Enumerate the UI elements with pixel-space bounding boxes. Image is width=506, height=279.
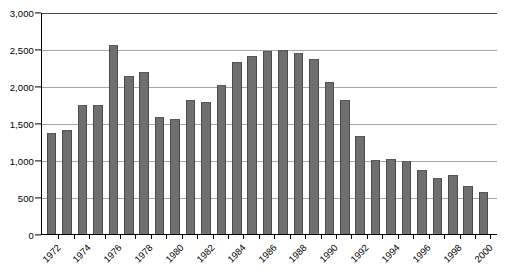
bar-1973 xyxy=(62,130,72,234)
x-tick-label-1972: 1972 xyxy=(36,242,62,268)
bar-chart: 3,0002,5002,0001,5001,0005000 1972197419… xyxy=(0,0,506,279)
bar-1996 xyxy=(417,170,427,234)
x-tick-mark-1986 xyxy=(274,235,275,239)
x-tick-mark-1985 xyxy=(259,235,260,239)
bar-1999 xyxy=(463,186,473,234)
y-tick-label-2500: 2,500 xyxy=(10,45,34,56)
x-axis: 1972197419761978198019821984198619881990… xyxy=(41,235,497,279)
bar-1978 xyxy=(139,72,149,234)
x-tick-mark-1977 xyxy=(135,235,136,239)
bar-1985 xyxy=(247,56,257,234)
x-tick-label-1986: 1986 xyxy=(252,242,278,268)
x-tick-mark-1982 xyxy=(213,235,214,239)
bar-1995 xyxy=(402,161,412,234)
plot-area xyxy=(41,13,497,235)
x-tick-label-1998: 1998 xyxy=(437,242,463,268)
x-tick-label-1988: 1988 xyxy=(283,242,309,268)
y-tick-label-500: 500 xyxy=(18,193,34,204)
x-tick-label-1976: 1976 xyxy=(98,242,124,268)
x-tick-mark-1976 xyxy=(120,235,121,239)
x-tick-label-1974: 1974 xyxy=(67,242,93,268)
bar-1988 xyxy=(294,53,304,234)
x-tick-mark-1989 xyxy=(321,235,322,239)
bar-1987 xyxy=(278,50,288,234)
bar-1974 xyxy=(78,105,88,235)
bar-1982 xyxy=(201,102,211,234)
x-tick-mark-1998 xyxy=(460,235,461,239)
x-tick-mark-1983 xyxy=(228,235,229,239)
bar-1983 xyxy=(217,85,227,234)
bar-1984 xyxy=(232,62,242,234)
y-tick-label-1500: 1,500 xyxy=(10,119,34,130)
bar-1981 xyxy=(186,100,196,234)
x-tick-mark-1990 xyxy=(336,235,337,239)
x-tick-label-1982: 1982 xyxy=(190,242,216,268)
x-tick-mark-1979 xyxy=(166,235,167,239)
y-axis: 3,0002,5002,0001,5001,0005000 xyxy=(0,0,41,279)
x-tick-mark-1997 xyxy=(444,235,445,239)
x-tick-mark-1991 xyxy=(351,235,352,239)
bar-1989 xyxy=(309,59,319,234)
x-tick-mark-1995 xyxy=(413,235,414,239)
bar-1979 xyxy=(155,117,165,234)
x-tick-mark-1987 xyxy=(290,235,291,239)
x-tick-label-1984: 1984 xyxy=(221,242,247,268)
x-tick-label-1978: 1978 xyxy=(129,242,155,268)
bar-1980 xyxy=(170,119,180,234)
y-tick-label-3000: 3,000 xyxy=(10,8,34,19)
x-tick-label-1990: 1990 xyxy=(314,242,340,268)
x-tick-mark-1975 xyxy=(105,235,106,239)
x-tick-mark-1988 xyxy=(305,235,306,239)
bar-1986 xyxy=(263,51,273,234)
bar-1993 xyxy=(371,160,381,234)
x-tick-label-2000: 2000 xyxy=(468,242,494,268)
x-tick-mark-1973 xyxy=(74,235,75,239)
bar-1998 xyxy=(448,175,458,234)
bar-1972 xyxy=(47,133,57,234)
x-tick-mark-1994 xyxy=(398,235,399,239)
x-tick-label-1992: 1992 xyxy=(345,242,371,268)
x-tick-label-1994: 1994 xyxy=(376,242,402,268)
bar-1991 xyxy=(340,100,350,234)
x-tick-mark-2000 xyxy=(490,235,491,239)
y-tick-label-0: 0 xyxy=(29,230,34,241)
x-tick-mark-1984 xyxy=(243,235,244,239)
x-tick-mark-1972 xyxy=(58,235,59,239)
bar-1992 xyxy=(355,136,365,234)
x-tick-mark-1996 xyxy=(429,235,430,239)
bar-1997 xyxy=(433,178,443,234)
x-tick-mark-1992 xyxy=(367,235,368,239)
x-tick-mark-1999 xyxy=(475,235,476,239)
bar-1977 xyxy=(124,76,134,234)
bar-2000 xyxy=(479,192,489,234)
x-tick-mark-1981 xyxy=(197,235,198,239)
y-tick-label-2000: 2,000 xyxy=(10,82,34,93)
x-tick-mark-1974 xyxy=(89,235,90,239)
x-tick-label-1980: 1980 xyxy=(160,242,186,268)
x-tick-mark-1978 xyxy=(151,235,152,239)
x-tick-mark-1993 xyxy=(382,235,383,239)
x-tick-mark-1980 xyxy=(182,235,183,239)
bar-1994 xyxy=(386,159,396,234)
bar-1975 xyxy=(93,105,103,235)
bar-1976 xyxy=(109,45,119,234)
y-tick-label-1000: 1,000 xyxy=(10,156,34,167)
bar-1990 xyxy=(325,82,335,234)
bars-layer xyxy=(42,13,497,234)
x-tick-label-1996: 1996 xyxy=(407,242,433,268)
